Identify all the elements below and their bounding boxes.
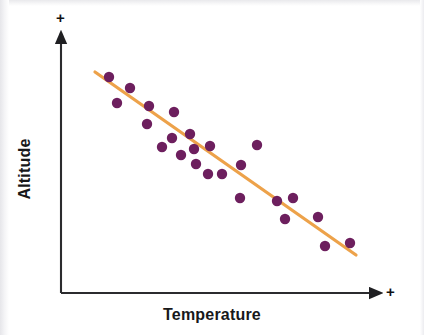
x-axis-positive-marker: +: [386, 284, 395, 299]
data-point: [345, 238, 355, 248]
data-point: [280, 214, 290, 224]
x-axis-title: Temperature: [0, 306, 424, 324]
y-axis-title: Altitude: [16, 104, 34, 234]
data-point: [205, 141, 215, 151]
data-point: [125, 83, 135, 93]
data-point: [169, 107, 179, 117]
data-point: [191, 159, 201, 169]
data-point: [272, 196, 282, 206]
data-point: [320, 241, 330, 251]
plot-svg: [0, 0, 424, 335]
data-point: [252, 140, 262, 150]
data-point: [217, 169, 227, 179]
y-axis-positive-marker: +: [56, 10, 65, 25]
data-point: [104, 72, 114, 82]
data-point: [167, 133, 177, 143]
data-point: [236, 160, 246, 170]
data-point: [185, 129, 195, 139]
data-point: [176, 150, 186, 160]
data-point: [144, 101, 154, 111]
data-point: [288, 193, 298, 203]
trend-line: [95, 72, 356, 255]
data-point: [112, 98, 122, 108]
data-point: [313, 212, 323, 222]
data-point: [189, 144, 199, 154]
data-point: [142, 119, 152, 129]
data-point: [157, 142, 167, 152]
data-point: [235, 193, 245, 203]
scatter-plot-figure: + + Altitude Temperature: [0, 0, 424, 335]
data-points-group: [104, 72, 355, 251]
data-point: [203, 169, 213, 179]
